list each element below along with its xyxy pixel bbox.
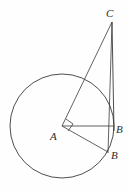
geometry-figure-canvas: C A B B <box>0 0 129 193</box>
segment-AC <box>62 22 112 126</box>
geometry-diagram <box>0 0 129 193</box>
point-label-C: C <box>106 8 113 19</box>
point-label-A: A <box>50 131 57 142</box>
point-label-B-upper: B <box>116 124 123 135</box>
point-label-B-lower: B <box>111 150 118 161</box>
segment-C-B-lower <box>108 22 112 153</box>
